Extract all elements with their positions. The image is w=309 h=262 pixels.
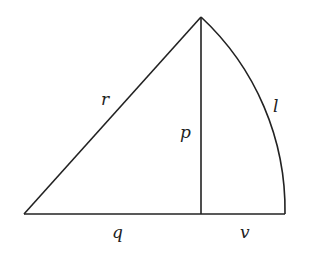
label-r: r: [101, 89, 110, 109]
label-l: l: [273, 96, 278, 116]
label-v: v: [240, 222, 250, 242]
label-p: p: [180, 122, 191, 142]
label-q: q: [112, 222, 123, 242]
hypotenuse-r: [24, 17, 201, 214]
geometry-diagram: r p l q v: [0, 0, 309, 262]
